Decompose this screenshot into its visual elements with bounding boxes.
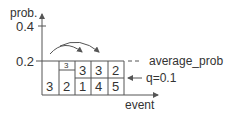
cell-4-top: 3: [95, 63, 102, 78]
cell-5-bottom: 5: [112, 79, 119, 94]
cell-2-top: 3: [64, 61, 69, 70]
alias-table-diagram: prob. 0.4 0.2 event average_prob 3 3 2 3…: [0, 0, 232, 116]
y-axis-label: prob.: [10, 6, 37, 20]
q-label: q=0.1: [146, 71, 177, 85]
x-axis-label: event: [125, 98, 155, 112]
redistribute-arrow-1-icon: [50, 45, 82, 54]
cell-4-bottom: 4: [95, 79, 102, 94]
cell-3-top: 3: [79, 63, 86, 78]
cell-2-bottom: 2: [63, 79, 70, 94]
average-prob-label: average_prob: [149, 54, 223, 68]
cell-3-bottom: 1: [79, 79, 86, 94]
y-axis: [38, 14, 46, 95]
cell-1-bottom: 3: [46, 79, 53, 94]
tick-label-0-2: 0.2: [16, 54, 34, 69]
cell-5-top: 2: [112, 63, 119, 78]
tick-label-0-4: 0.4: [16, 19, 34, 34]
